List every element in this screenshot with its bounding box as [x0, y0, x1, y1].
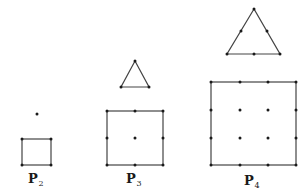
p3-triangle-point — [120, 86, 123, 89]
p4-square-point — [295, 81, 298, 84]
p4-square-point — [239, 164, 242, 167]
p3-square-point — [162, 137, 165, 140]
polygonal-number-figure: P2 P3 P4 — [0, 0, 303, 191]
p4-square-point — [210, 137, 213, 140]
p4-square-point — [267, 137, 270, 140]
p2-square-point — [21, 138, 24, 141]
p3-square-point — [134, 110, 137, 113]
p3-square-point — [162, 110, 165, 113]
panel-p2: P2 — [21, 113, 53, 189]
p4-square-point — [267, 164, 270, 167]
p2-triangle-point — [36, 113, 39, 116]
p3-square-point — [106, 110, 109, 113]
p3-triangle-point — [134, 60, 137, 63]
p4-triangle-point — [266, 30, 269, 33]
panel-p3: P3 — [106, 60, 165, 189]
p3-square-point — [134, 137, 137, 140]
panel-p4: P4 — [210, 8, 298, 191]
p4-square-point — [210, 164, 213, 167]
p2-square-point — [21, 164, 24, 167]
p3-square-point — [106, 137, 109, 140]
p2-square-point — [50, 164, 53, 167]
p3-triangle-point — [148, 86, 151, 89]
p3-label: P — [126, 171, 136, 186]
p4-label: P — [244, 173, 254, 188]
p4-square-point — [239, 81, 242, 84]
p3-triangle — [121, 61, 149, 87]
p4-triangle-point — [240, 30, 243, 33]
p4-square-point — [239, 109, 242, 112]
p4-label-subscript: 4 — [254, 181, 259, 190]
p4-triangle — [227, 9, 280, 54]
p2-label: P — [28, 171, 38, 186]
p3-square-point — [134, 164, 137, 167]
p3-square-point — [106, 164, 109, 167]
p2-square — [22, 139, 51, 165]
p4-square-point — [267, 81, 270, 84]
p4-triangle-point — [226, 53, 229, 56]
p4-triangle-point — [253, 8, 256, 11]
p4-square-point — [295, 164, 298, 167]
p4-square — [211, 82, 296, 165]
p4-square-point — [210, 81, 213, 84]
p3-label-subscript: 3 — [136, 179, 141, 188]
p4-square-point — [210, 109, 213, 112]
p3-square-point — [162, 164, 165, 167]
p4-triangle-point — [253, 53, 256, 56]
p2-label-subscript: 2 — [38, 179, 43, 188]
p4-square-point — [295, 109, 298, 112]
p4-square-point — [239, 137, 242, 140]
p2-square-point — [50, 138, 53, 141]
p4-square-point — [267, 109, 270, 112]
p4-square-point — [295, 137, 298, 140]
p4-triangle-point — [279, 53, 282, 56]
